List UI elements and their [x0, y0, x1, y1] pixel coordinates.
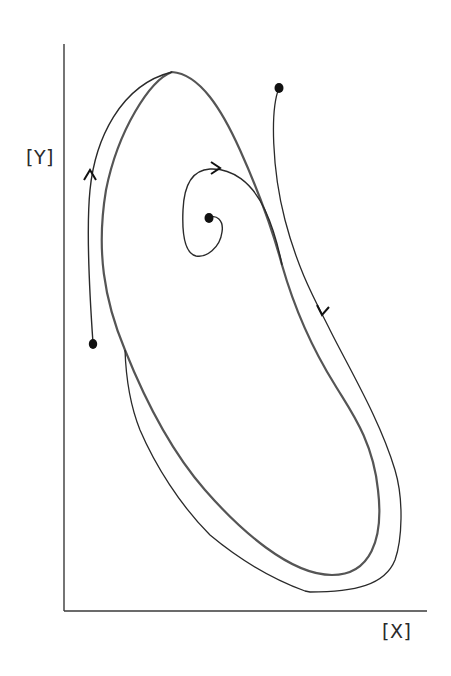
- arrow-up-icon: [84, 170, 96, 180]
- x-axis-label: [X]: [382, 620, 411, 642]
- arrow-right-icon: [211, 162, 220, 174]
- arrow-down-icon: [317, 305, 329, 315]
- steady-state-point: [205, 213, 214, 223]
- outer-right-trajectory: [125, 88, 401, 592]
- diagram-svg: [0, 0, 451, 676]
- y-axis-label: [Y]: [26, 146, 54, 168]
- axes: [64, 44, 427, 611]
- outer-left-trajectory: [88, 72, 172, 343]
- phase-plane-diagram: [Y] [X]: [0, 0, 451, 676]
- limit-cycle: [102, 72, 380, 575]
- initial-point-lower-left: [89, 339, 97, 349]
- initial-point-upper-right: [275, 83, 284, 93]
